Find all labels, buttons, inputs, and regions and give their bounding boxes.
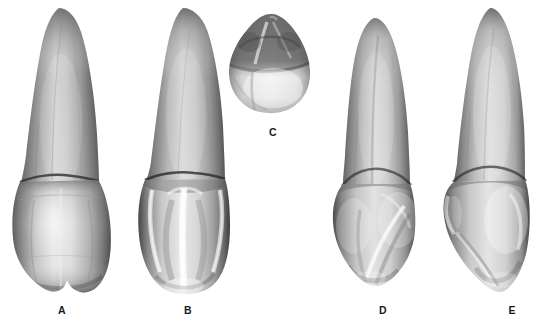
specimen-a-image — [4, 4, 122, 296]
specimen-a-crown — [12, 180, 111, 293]
specimen-d — [330, 14, 430, 294]
specimen-e — [440, 4, 544, 296]
specimen-a — [4, 4, 122, 296]
specimen-d-label: D — [373, 304, 393, 316]
specimen-a-root — [21, 8, 99, 194]
specimen-d-image — [330, 14, 430, 294]
specimen-e-image — [440, 4, 544, 296]
specimen-d-root — [343, 18, 410, 184]
specimen-b — [134, 4, 238, 296]
dental-figure-plate: A — [0, 0, 555, 327]
specimen-e-label: E — [502, 304, 522, 316]
specimen-c — [225, 12, 313, 116]
specimen-b-crown — [138, 176, 230, 294]
specimen-c-anatomy — [225, 12, 313, 113]
specimen-c-label: C — [263, 126, 283, 138]
specimen-d-crown — [332, 178, 418, 286]
specimen-a-label: A — [52, 304, 72, 316]
specimen-e-root — [454, 8, 525, 182]
specimen-e-crown — [442, 174, 530, 292]
specimen-b-image — [134, 4, 238, 296]
specimen-b-label: B — [178, 304, 198, 316]
specimen-c-image — [225, 12, 313, 116]
specimen-b-root — [146, 8, 225, 184]
